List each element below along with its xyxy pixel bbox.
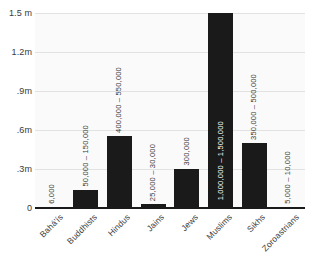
y-axis-tick-label: 1.2m [12, 48, 32, 57]
bar-slot: 25,000 – 30,000 [141, 13, 166, 208]
bar-value-label: 5,000 – 10,000 [284, 151, 292, 204]
x-axis-tick-label: Jains [145, 212, 166, 233]
y-axis-tick-label: .6m [17, 126, 32, 135]
bar-slot: 1,000,000 – 1,500,000 [208, 13, 233, 208]
bar[interactable] [107, 136, 132, 208]
bar-slot: 6,000 [39, 13, 64, 208]
x-axis-tick-label: Jews [179, 212, 200, 233]
y-axis-tick-label: 1.5 m [9, 9, 32, 18]
bar-value-label: 50,000 – 150,000 [82, 125, 90, 187]
bar-slot: 300,000 [174, 13, 199, 208]
x-axis-tick-label: Muslims [204, 212, 234, 242]
bar-value-label: 350,000 – 500,000 [251, 74, 259, 140]
x-axis-tick-label: Sikhs [245, 212, 267, 234]
bar-value-label: 25,000 – 30,000 [149, 144, 157, 201]
x-axis: Bahá'ísBuddhistsHindusJainsJewsMuslimsSi… [0, 208, 313, 267]
bar-chart: 0.3m.6m.9m1.2m1.5 m 6,00050,000 – 150,00… [0, 0, 313, 267]
bar-slot: 400,000 – 550,000 [107, 13, 132, 208]
plot-area: 6,00050,000 – 150,000400,000 – 550,00025… [35, 13, 305, 208]
bar-slot: 350,000 – 500,000 [242, 13, 267, 208]
bar-value-label: 6,000 [48, 184, 56, 204]
y-axis-tick-label: .3m [17, 165, 32, 174]
x-axis-tick-label: Hindus [106, 212, 132, 238]
bar[interactable] [73, 190, 98, 208]
bar-value-label: 1,000,000 – 1,500,000 [217, 121, 225, 200]
bar[interactable] [174, 169, 199, 208]
y-axis-tick-label: .9m [17, 87, 32, 96]
bar[interactable] [242, 143, 267, 208]
x-axis-tick-label: Buddhists [65, 212, 99, 246]
bar-value-label: 300,000 [183, 137, 191, 166]
bar-value-label: 400,000 – 550,000 [116, 67, 124, 133]
x-axis-tick-label: Bahá'ís [38, 212, 65, 239]
bar-slot: 5,000 – 10,000 [276, 13, 301, 208]
bar-slot: 50,000 – 150,000 [73, 13, 98, 208]
